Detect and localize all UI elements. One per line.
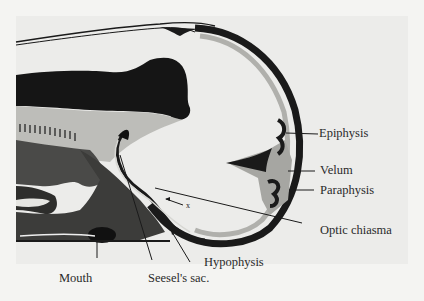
label-optic-chiasma: Optic chiasma bbox=[320, 224, 392, 237]
label-hypophysis: Hypophysis bbox=[204, 256, 264, 269]
label-paraphysis: Paraphysis bbox=[320, 184, 374, 197]
label-velum: Velum bbox=[320, 164, 353, 177]
label-epiphysis: Epiphysis bbox=[319, 127, 368, 140]
label-mouth: Mouth bbox=[59, 272, 92, 285]
label-seesels-sac: Seesel's sac. bbox=[148, 272, 209, 285]
epiphysis-leader bbox=[286, 133, 318, 134]
label-x-marker: x bbox=[186, 201, 190, 210]
